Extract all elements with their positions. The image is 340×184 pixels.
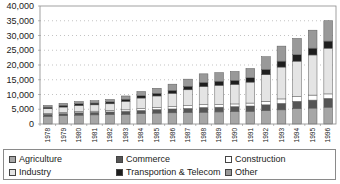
bar-segment xyxy=(308,55,317,95)
y-tick-label: 25,000 xyxy=(6,45,34,55)
bar-segment xyxy=(262,75,271,102)
x-tick-label: 1990 xyxy=(231,128,238,143)
bar-segment xyxy=(246,82,255,103)
legend-item-transport-telecom: Transportion & Telecom xyxy=(116,166,221,178)
x-tick-label: 1987 xyxy=(184,128,191,143)
bar-segment xyxy=(137,109,146,111)
construction-swatch-icon xyxy=(225,156,232,163)
x-tick-label: 1986 xyxy=(169,128,176,143)
legend-item-construction: Construction xyxy=(225,153,286,165)
bar-segment xyxy=(324,98,333,107)
legend-item-commerce: Commerce xyxy=(116,153,170,165)
x-tick-label: 1991 xyxy=(247,128,254,143)
bar-segment xyxy=(324,21,333,41)
y-tick-label: 0 xyxy=(29,119,34,129)
bar-1986 xyxy=(168,84,177,124)
bar-segment xyxy=(152,93,161,96)
bar-segment xyxy=(215,112,224,124)
bar-segment xyxy=(90,103,99,105)
bar-segment xyxy=(90,115,99,124)
bar-segment xyxy=(121,111,130,114)
bar-segment xyxy=(230,112,239,124)
bar-segment xyxy=(59,107,68,112)
bar-segment xyxy=(246,106,255,111)
bar-segment xyxy=(293,97,302,102)
x-tick-label: 1992 xyxy=(262,128,269,143)
bar-segment xyxy=(121,96,130,99)
bar-segment xyxy=(168,93,177,106)
bar-segment xyxy=(75,113,84,115)
x-tick-label: 1993 xyxy=(278,128,285,143)
bar-1987 xyxy=(184,79,193,124)
bar-segment xyxy=(246,111,255,124)
bar-segment xyxy=(43,109,52,114)
bar-segment xyxy=(308,108,317,124)
bar-1996 xyxy=(324,21,333,124)
bar-segment xyxy=(168,107,177,109)
x-tick-label: 1995 xyxy=(309,128,316,143)
x-tick-label: 1978 xyxy=(44,128,51,143)
bar-segment xyxy=(184,112,193,124)
bar-segment xyxy=(230,80,239,84)
bar-segment xyxy=(75,102,84,104)
bar-segment xyxy=(184,108,193,112)
other-swatch-icon xyxy=(225,169,232,176)
x-tick-label: 1988 xyxy=(200,128,207,143)
legend-item-other: Other xyxy=(225,166,258,178)
bar-segment xyxy=(152,107,161,109)
bar-segment xyxy=(262,69,271,74)
legend-label: Other xyxy=(235,166,258,178)
bar-1994 xyxy=(293,38,302,124)
bar-segment xyxy=(293,109,302,124)
bar-segment xyxy=(43,116,52,124)
bar-segment xyxy=(230,84,239,103)
bar-segment xyxy=(199,74,208,83)
bar-segment xyxy=(137,114,146,124)
x-tick-label: 1989 xyxy=(215,128,222,143)
bar-segment xyxy=(215,105,224,108)
bar-1995 xyxy=(308,30,317,124)
y-tick-label: 40,000 xyxy=(6,1,34,11)
bar-segment xyxy=(137,110,146,113)
bar-1991 xyxy=(246,69,255,124)
y-tick-label: 30,000 xyxy=(6,31,34,41)
bars xyxy=(43,21,332,124)
bar-segment xyxy=(43,114,52,116)
bar-segment xyxy=(59,103,68,105)
bar-segment xyxy=(106,104,115,111)
bar-segment xyxy=(137,92,146,96)
y-tick-label: 35,000 xyxy=(6,16,34,26)
bar-segment xyxy=(215,107,224,112)
bar-segment xyxy=(184,79,193,86)
x-tick-label: 1982 xyxy=(106,128,113,143)
bar-segment xyxy=(168,90,177,93)
bar-1979 xyxy=(59,103,68,124)
x-tick-label: 1994 xyxy=(293,128,300,143)
bar-1981 xyxy=(90,101,99,124)
bar-1980 xyxy=(75,102,84,124)
bar-segment xyxy=(184,86,193,90)
bar-segment xyxy=(199,112,208,124)
y-axis: 05,00010,00015,00020,00025,00030,00035,0… xyxy=(6,1,40,129)
bar-segment xyxy=(324,94,333,98)
industry-swatch-icon xyxy=(9,169,16,176)
legend-item-agriculture: Agriculture xyxy=(9,153,62,165)
bar-segment xyxy=(262,57,271,70)
legend-label: Agriculture xyxy=(19,153,62,165)
bar-segment xyxy=(262,111,271,124)
bar-segment xyxy=(75,115,84,124)
bar-1978 xyxy=(43,105,52,124)
bar-1990 xyxy=(230,71,239,124)
bar-segment xyxy=(43,105,52,107)
bar-segment xyxy=(199,107,208,112)
legend-label: Commerce xyxy=(126,153,170,165)
bar-segment xyxy=(199,82,208,86)
bar-segment xyxy=(308,48,317,55)
bar-segment xyxy=(199,105,208,108)
bar-segment xyxy=(59,116,68,124)
agriculture-swatch-icon xyxy=(9,156,16,163)
bar-segment xyxy=(230,104,239,107)
y-tick-label: 20,000 xyxy=(6,60,34,70)
bar-segment xyxy=(215,85,224,104)
transport-swatch-icon xyxy=(116,169,123,176)
